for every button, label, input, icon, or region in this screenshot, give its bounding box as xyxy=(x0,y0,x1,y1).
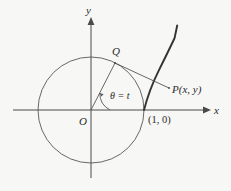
involute-diagram-canvas: y x O Q P(x, y) (1, 0) θ = t xyxy=(0,0,231,191)
point-q-label: Q xyxy=(112,45,120,57)
angle-label: θ = t xyxy=(110,90,130,101)
x-axis-arrowhead xyxy=(203,107,211,114)
point-p-label: P(x, y) xyxy=(171,83,202,96)
point-q-marker xyxy=(114,62,116,64)
unit-point-label: (1, 0) xyxy=(148,114,171,126)
involute-figure: y x O Q P(x, y) (1, 0) θ = t xyxy=(0,0,231,191)
x-axis xyxy=(13,107,211,114)
involute-curve xyxy=(144,26,177,111)
angle-arc-group xyxy=(100,93,110,110)
x-axis-label: x xyxy=(213,104,219,116)
y-axis-label: y xyxy=(85,4,91,16)
y-axis xyxy=(88,17,95,178)
radius-oq-segment xyxy=(91,63,115,110)
point-p-marker xyxy=(168,87,170,89)
origin-label: O xyxy=(79,115,87,127)
y-axis-arrowhead xyxy=(88,17,95,25)
